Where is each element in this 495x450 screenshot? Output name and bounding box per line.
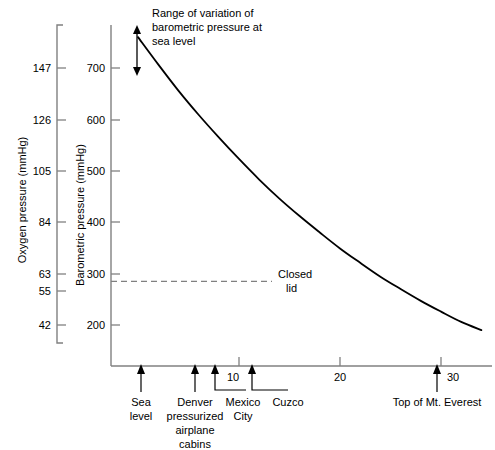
range-annotation-line2: barometric pressure at [152,21,262,33]
barometric-axis: 700 600 500 400 300 200 Barometric press… [74,25,120,366]
oxygen-axis-ticks [57,68,66,325]
range-arrow-head-down [133,67,141,76]
sea-level-label-line2: level [130,410,153,422]
oxygen-axis: 147 126 105 84 63 55 42 Oxygen pressure … [16,25,66,343]
barometric-axis-ticks [111,68,120,325]
chart-canvas: 147 126 105 84 63 55 42 Oxygen pressure … [0,0,495,450]
barometric-axis-title: Barometric pressure (mmHg) [74,144,86,286]
denver-label-line3: airplane [175,424,214,436]
barometric-pressure-curve [138,37,481,330]
x-tick-label-20: 20 [334,371,346,383]
oxygen-tick-label-63: 63 [39,268,51,280]
range-annotation-line3: sea level [152,35,195,47]
oxygen-tick-label-84: 84 [39,216,51,228]
marker-sea-level: Sea level [130,364,153,422]
range-of-variation-annotation: Range of variation of barometric pressur… [133,7,262,76]
oxygen-axis-title: Oxygen pressure (mmHg) [16,137,28,264]
marker-mt-everest: Top of Mt. Everest [393,364,482,408]
cuzco-leader-line [252,372,288,390]
range-annotation-line1: Range of variation of [152,7,254,19]
closed-lid-reference-line: Closed lid [111,268,312,294]
barometric-tick-label-600: 600 [87,114,105,126]
oxygen-tick-label-126: 126 [33,114,51,126]
sea-level-label-line1: Sea [131,396,151,408]
denver-label-line2: pressurized [167,410,224,422]
chart-figure: 147 126 105 84 63 55 42 Oxygen pressure … [0,0,495,450]
closed-lid-label-line2: lid [286,282,297,294]
barometric-tick-label-300: 300 [87,268,105,280]
oxygen-tick-label-42: 42 [39,319,51,331]
oxygen-tick-label-105: 105 [33,165,51,177]
mt-everest-label-line1: Top of Mt. Everest [393,396,482,408]
denver-label-line4: cabins [179,438,211,450]
x-tick-label-10: 10 [227,371,239,383]
closed-lid-label-line1: Closed [278,268,312,280]
cuzco-label-line1: Cuzco [272,396,303,408]
oxygen-axis-spine [57,25,63,343]
barometric-tick-label-400: 400 [87,216,105,228]
mexico-city-label-line2: City [234,410,253,422]
barometric-tick-label-500: 500 [87,165,105,177]
oxygen-tick-label-55: 55 [39,285,51,297]
range-arrow-head-up [133,25,141,34]
mexico-city-label-line1: Mexico [226,396,261,408]
oxygen-tick-label-147: 147 [33,62,51,74]
x-tick-label-30: 30 [447,371,459,383]
denver-label-line1: Denver [177,396,213,408]
barometric-tick-label-200: 200 [87,319,105,331]
barometric-tick-label-700: 700 [87,62,105,74]
